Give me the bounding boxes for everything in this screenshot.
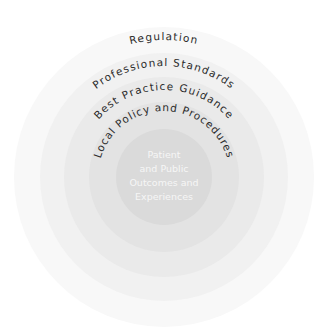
concentric-diagram: Regulation Professional Standards Best P… bbox=[0, 0, 323, 330]
core-line-1: Patient bbox=[147, 149, 180, 160]
core-line-4: Experiences bbox=[135, 191, 193, 202]
core-line-2: and Public bbox=[139, 163, 188, 174]
core-line-3: Outcomes and bbox=[129, 177, 198, 188]
